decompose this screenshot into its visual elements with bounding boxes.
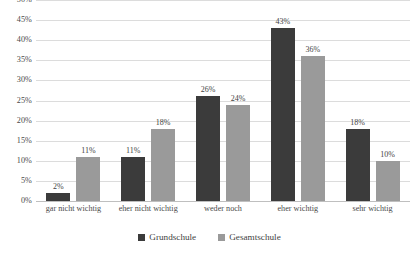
bar-value-label: 36%	[305, 46, 320, 54]
y-axis-tick-label: 40%	[0, 36, 32, 44]
y-axis-tick-label: 0%	[0, 197, 32, 205]
x-axis-tick-label: sehr wichtig	[335, 204, 410, 214]
x-axis-tick-label: gar nicht wichtig	[36, 204, 111, 214]
legend-label: Grundschule	[149, 233, 196, 242]
bar-group: 2%11%	[36, 0, 111, 201]
y-axis-tick-label: 20%	[0, 116, 32, 124]
y-axis-tick-label: 45%	[0, 16, 32, 24]
bar-slot: 18%	[346, 0, 370, 201]
legend-swatch-icon	[218, 234, 225, 241]
bar[interactable]	[46, 193, 70, 201]
bar-value-label: 24%	[231, 95, 246, 103]
bar-value-label: 18%	[350, 119, 365, 127]
bar-groups: 2%11%11%18%26%24%43%36%18%10%	[36, 0, 410, 201]
legend-swatch-icon	[138, 234, 145, 241]
x-axis-tick-label: weder noch	[186, 204, 261, 214]
y-axis-tick-label: 10%	[0, 157, 32, 165]
legend-item[interactable]: Gesamtschule	[218, 233, 281, 242]
bar-group: 26%24%	[186, 0, 261, 201]
bar[interactable]	[196, 96, 220, 201]
chart-legend: GrundschuleGesamtschule	[0, 233, 419, 242]
x-axis-tick-label: eher wichtig	[260, 204, 335, 214]
bar-chart: 50%45%40%35%30%25%20%15%10%5%0% 2%11%11%…	[0, 0, 419, 257]
bar-slot: 26%	[196, 0, 220, 201]
bar-group: 18%10%	[335, 0, 410, 201]
y-axis-tick-label: 25%	[0, 96, 32, 104]
bar[interactable]	[301, 56, 325, 201]
bar-slot: 11%	[76, 0, 100, 201]
bar-value-label: 11%	[81, 147, 95, 155]
y-axis: 50%45%40%35%30%25%20%15%10%5%0%	[0, 0, 32, 202]
bar[interactable]	[151, 129, 175, 201]
bar-value-label: 26%	[201, 86, 216, 94]
bar-slot: 43%	[271, 0, 295, 201]
bar-slot: 2%	[46, 0, 70, 201]
x-axis-baseline	[36, 201, 410, 202]
bar-slot: 36%	[301, 0, 325, 201]
bar[interactable]	[121, 157, 145, 201]
bar-value-label: 10%	[380, 151, 395, 159]
bar-value-label: 18%	[156, 119, 171, 127]
bar-value-label: 43%	[275, 18, 290, 26]
legend-item[interactable]: Grundschule	[138, 233, 196, 242]
bar-slot: 10%	[376, 0, 400, 201]
bar[interactable]	[271, 28, 295, 201]
y-axis-tick-label: 15%	[0, 137, 32, 145]
x-axis-category-labels: gar nicht wichtigeher nicht wichtigweder…	[36, 204, 410, 214]
bar-value-label: 11%	[126, 147, 140, 155]
bar[interactable]	[76, 157, 100, 201]
plot-area: 50%45%40%35%30%25%20%15%10%5%0% 2%11%11%…	[0, 0, 419, 225]
y-axis-tick-label: 35%	[0, 56, 32, 64]
y-axis-tick-label: 50%	[0, 0, 32, 4]
bar-group: 11%18%	[111, 0, 186, 201]
bar[interactable]	[346, 129, 370, 201]
bar-value-label: 2%	[53, 183, 64, 191]
x-axis-tick-label: eher nicht wichtig	[111, 204, 186, 214]
bar-group: 43%36%	[260, 0, 335, 201]
bar-slot: 11%	[121, 0, 145, 201]
bar[interactable]	[226, 105, 250, 201]
y-axis-tick-label: 5%	[0, 177, 32, 185]
bar-slot: 18%	[151, 0, 175, 201]
legend-label: Gesamtschule	[229, 233, 281, 242]
y-axis-tick-label: 30%	[0, 76, 32, 84]
bar-slot: 24%	[226, 0, 250, 201]
bar[interactable]	[376, 161, 400, 201]
